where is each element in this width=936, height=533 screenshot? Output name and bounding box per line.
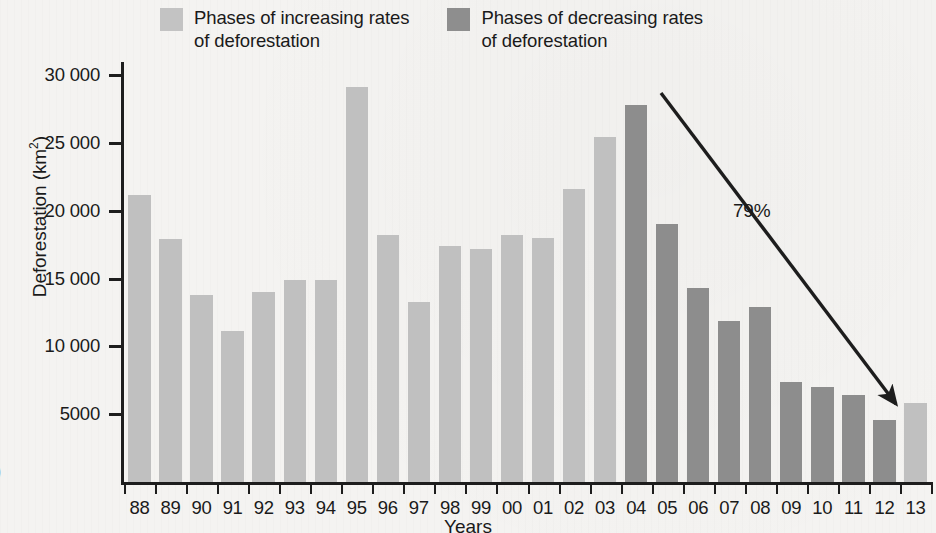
legend-label-decreasing: Phases of decreasing rates of deforestat…	[481, 6, 703, 52]
y-tick-label-15000: 15 000	[22, 268, 100, 290]
bar-08	[749, 307, 771, 482]
bar-88	[128, 195, 150, 482]
legend-item-increasing: Phases of increasing rates of deforestat…	[160, 6, 409, 52]
x-tick-19	[714, 482, 716, 494]
percent-reduction-label: 79%	[733, 200, 770, 222]
x-tick-16	[621, 482, 623, 494]
x-tick-23	[838, 482, 840, 494]
y-tick-30000	[109, 74, 122, 77]
deforestation-bar-chart: ) Phases of increasing rates of deforest…	[0, 0, 936, 533]
bar-07	[718, 321, 740, 482]
x-tick-25	[900, 482, 902, 494]
bar-93	[284, 280, 306, 482]
bar-09	[780, 382, 802, 482]
figure-letter-fragment: )	[0, 458, 1, 484]
bar-03	[594, 137, 616, 482]
y-tick-label-10000: 10 000	[22, 335, 100, 357]
x-tick-12	[496, 482, 498, 494]
y-tick-20000	[109, 210, 122, 213]
bar-13	[904, 403, 926, 482]
bar-04	[625, 105, 647, 482]
x-tick-10	[434, 482, 436, 494]
bar-99	[470, 249, 492, 482]
x-tick-0	[124, 482, 126, 494]
y-tick-25000	[109, 142, 122, 145]
bar-01	[532, 238, 554, 482]
x-tick-24	[869, 482, 871, 494]
x-tick-15	[590, 482, 592, 494]
x-tick-13	[528, 482, 530, 494]
x-tick-7	[341, 482, 343, 494]
x-tick-3	[217, 482, 219, 494]
legend-swatch-increasing-icon	[160, 8, 183, 31]
x-tick-9	[403, 482, 405, 494]
bar-98	[439, 246, 461, 482]
y-tick-label-20000: 20 000	[22, 200, 100, 222]
x-tick-2	[186, 482, 188, 494]
y-tick-5000	[109, 413, 122, 416]
x-tick-17	[652, 482, 654, 494]
bar-02	[563, 189, 585, 482]
legend-label-increasing: Phases of increasing rates of deforestat…	[194, 6, 409, 52]
bar-12	[873, 420, 895, 482]
x-axis-title: Years	[0, 516, 936, 533]
x-tick-5	[279, 482, 281, 494]
x-tick-21	[776, 482, 778, 494]
bar-92	[252, 292, 274, 482]
x-tick-6	[310, 482, 312, 494]
bar-90	[190, 295, 212, 482]
bar-11	[842, 395, 864, 482]
bar-97	[408, 302, 430, 482]
x-tick-4	[248, 482, 250, 494]
y-tick-10000	[109, 345, 122, 348]
x-tick-20	[745, 482, 747, 494]
x-tick-11	[465, 482, 467, 494]
bar-06	[687, 288, 709, 482]
bar-00	[501, 235, 523, 482]
bar-95	[346, 87, 368, 482]
legend-swatch-decreasing-icon	[447, 8, 470, 31]
bar-91	[221, 331, 243, 482]
x-tick-22	[807, 482, 809, 494]
bar-10	[811, 387, 833, 482]
x-tick-1	[155, 482, 157, 494]
chart-legend: Phases of increasing rates of deforestat…	[160, 6, 703, 52]
y-tick-label-30000: 30 000	[22, 64, 100, 86]
x-tick-18	[683, 482, 685, 494]
bar-05	[656, 224, 678, 482]
x-tick-14	[559, 482, 561, 494]
bar-96	[377, 235, 399, 482]
y-tick-label-25000: 25 000	[22, 132, 100, 154]
x-tick-26	[931, 482, 933, 494]
y-tick-15000	[109, 278, 122, 281]
x-tick-8	[372, 482, 374, 494]
y-tick-label-5000: 5000	[22, 403, 100, 425]
legend-item-decreasing: Phases of decreasing rates of deforestat…	[447, 6, 703, 52]
y-axis-line	[121, 62, 124, 485]
bar-89	[159, 239, 181, 482]
bar-94	[315, 280, 337, 482]
